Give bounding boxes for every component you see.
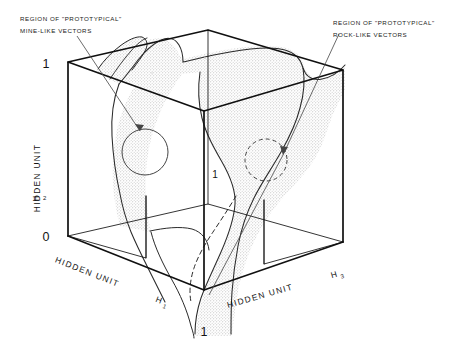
left-callout-line2: MINE-LIKE VECTORS	[20, 27, 92, 34]
mid-plane-right	[264, 200, 343, 264]
axis-tick-h1-max: 1	[201, 325, 208, 339]
diagram-svg: REGION OF "PROTOTYPICAL" MINE-LIKE VECTO…	[0, 0, 468, 348]
cube-bottom-back-edges	[68, 204, 343, 242]
axis-label-h1-main: HIDDEN UNIT	[54, 255, 121, 289]
axis-tick-h2-min: 0	[43, 230, 50, 244]
decision-surface	[98, 37, 345, 338]
surface-tail-left-edge	[151, 232, 194, 338]
stipple-speck	[151, 72, 152, 73]
axis-tick-h2-max: 1	[43, 57, 50, 71]
surface-bottom-trace	[150, 228, 209, 250]
left-callout-line1: REGION OF "PROTOTYPICAL"	[20, 15, 122, 22]
axis-label-h2-symbol: H	[31, 194, 41, 201]
axis-label-h3-subscript: 3	[340, 273, 345, 280]
axis-label-h3-symbol: H	[330, 269, 340, 281]
axis-label-h1: HIDDEN UNIT H 1	[53, 255, 170, 311]
right-callout-line1: REGION OF "PROTOTYPICAL"	[333, 19, 435, 26]
axis-label-h2-symbol-group: H	[31, 194, 41, 201]
left-callout: REGION OF "PROTOTYPICAL" MINE-LIKE VECTO…	[20, 15, 122, 34]
axis-tick-interior: 1	[212, 169, 218, 180]
figure-canvas: REGION OF "PROTOTYPICAL" MINE-LIKE VECTO…	[0, 0, 468, 348]
axis-label-h1-subscript: 1	[162, 303, 168, 310]
right-callout: REGION OF "PROTOTYPICAL" ROCK-LIKE VECTO…	[333, 19, 435, 38]
stipple-speck	[204, 57, 206, 59]
right-callout-line2: ROCK-LIKE VECTORS	[333, 31, 407, 38]
surface-body	[98, 38, 345, 336]
axis-label-h2-subscript: 2	[43, 195, 47, 201]
axis-label-h3: HIDDEN UNIT H 3	[226, 267, 346, 312]
